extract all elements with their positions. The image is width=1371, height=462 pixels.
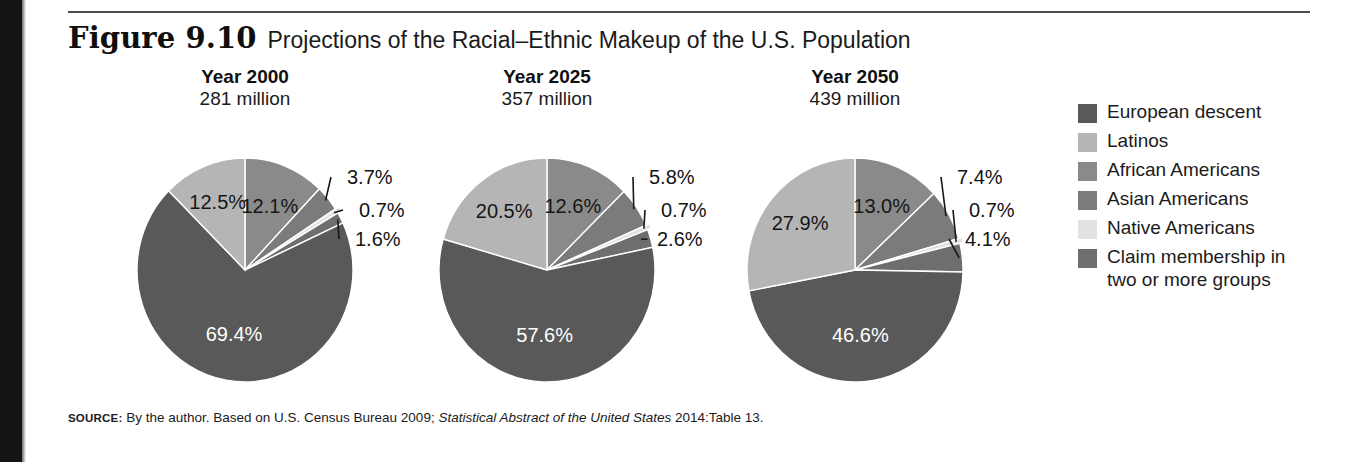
figure-page: Figure 9.10Projections of the Racial–Eth… [0, 0, 1371, 462]
figure-number: Figure 9.10 [68, 21, 257, 55]
chart-header-2050: Year 2050 439 million [745, 66, 965, 111]
pie-svg: 57.6%20.5%12.6%5.8%0.7%2.6% [415, 152, 715, 402]
legend-swatch-latinos-icon [1078, 133, 1097, 152]
legend-item-label: Asian Americans [1107, 188, 1249, 211]
pie-slice-value-label: 5.8% [649, 166, 695, 188]
legend-swatch-african-americans-icon [1078, 162, 1097, 181]
pie-slice-value-label: 0.7% [661, 199, 707, 221]
pie-slice-value-label: 46.6% [832, 324, 889, 346]
pie-slice-value-label: 0.7% [969, 199, 1015, 221]
pie-slice-value-label: 12.1% [241, 195, 298, 217]
legend-swatch-claim-membership-icon [1078, 249, 1097, 268]
pie-slice-value-label: 4.1% [965, 228, 1011, 250]
legend-item-label: Native Americans [1107, 217, 1255, 240]
pie-slice-value-label: 12.5% [189, 191, 246, 213]
legend-swatch-european-descent-icon [1078, 104, 1097, 123]
pie-slice-value-label: 27.9% [772, 212, 829, 234]
legend-item[interactable]: European descent [1078, 101, 1358, 125]
pie-svg: 69.4%12.5%12.1%3.7%0.7%1.6% [113, 152, 413, 402]
legend: European descentLatinosAfrican Americans… [1078, 101, 1358, 297]
pie-slice-value-label: 13.0% [853, 195, 910, 217]
source-keyword: SOURCE: [68, 412, 122, 424]
legend-item[interactable]: African Americans [1078, 159, 1358, 183]
legend-item-label: Latinos [1107, 130, 1168, 153]
legend-swatch-asian-americans-icon [1078, 191, 1097, 210]
source-note: SOURCE: By the author. Based on U.S. Cen… [68, 410, 764, 425]
pie-svg: 46.6%27.9%13.0%7.4%0.7%4.1% [723, 152, 1023, 402]
pie-slice-value-label: 0.7% [359, 199, 405, 221]
chart-header-2025: Year 2025 357 million [437, 66, 657, 111]
pie-label-leader-line [644, 210, 645, 229]
pie-slice-value-label: 1.6% [355, 228, 401, 250]
figure-title-text: Projections of the Racial–Ethnic Makeup … [268, 27, 911, 53]
figure-top-rule [68, 11, 1310, 13]
legend-item[interactable]: Latinos [1078, 130, 1358, 154]
pie-chart-2000: 69.4%12.5%12.1%3.7%0.7%1.6% [113, 152, 413, 402]
chart-population-label: 357 million [437, 88, 657, 110]
chart-population-label: 439 million [745, 88, 965, 110]
legend-swatch-native-americans-icon [1078, 220, 1097, 239]
pie-chart-2025: 57.6%20.5%12.6%5.8%0.7%2.6% [415, 152, 715, 402]
pie-slice-value-label: 7.4% [957, 166, 1003, 188]
source-text-after: 2014:Table 13. [671, 410, 763, 425]
source-text-before: By the author. Based on U.S. Census Bure… [122, 410, 438, 425]
pie-slice-value-label: 2.6% [657, 228, 703, 250]
legend-item-label: European descent [1107, 101, 1261, 124]
pie-slice-value-label: 57.6% [516, 324, 573, 346]
pie-slice-value-label: 20.5% [476, 200, 533, 222]
chart-population-label: 281 million [135, 88, 355, 110]
source-italic-title: Statistical Abstract of the United State… [438, 410, 671, 425]
pie-slice-value-label: 12.6% [545, 195, 602, 217]
legend-item-label: African Americans [1107, 159, 1260, 182]
chart-year-label: Year 2025 [437, 66, 657, 88]
legend-item[interactable]: Claim membership in two or more groups [1078, 246, 1358, 292]
page-spine-gradient [22, 0, 26, 462]
legend-item-label: Claim membership in two or more groups [1107, 246, 1285, 292]
legend-item[interactable]: Asian Americans [1078, 188, 1358, 212]
page-spine-shadow [0, 0, 22, 462]
figure-title: Figure 9.10Projections of the Racial–Eth… [68, 24, 911, 53]
legend-item[interactable]: Native Americans [1078, 217, 1358, 241]
pie-label-leader-line [326, 177, 331, 200]
chart-year-label: Year 2000 [135, 66, 355, 88]
chart-header-2000: Year 2000 281 million [135, 66, 355, 111]
pie-chart-2050: 46.6%27.9%13.0%7.4%0.7%4.1% [723, 152, 1023, 402]
chart-year-label: Year 2050 [745, 66, 965, 88]
pie-slice-value-label: 3.7% [347, 166, 393, 188]
pie-slice-value-label: 69.4% [206, 323, 263, 345]
pie-label-leader-line [633, 177, 634, 209]
